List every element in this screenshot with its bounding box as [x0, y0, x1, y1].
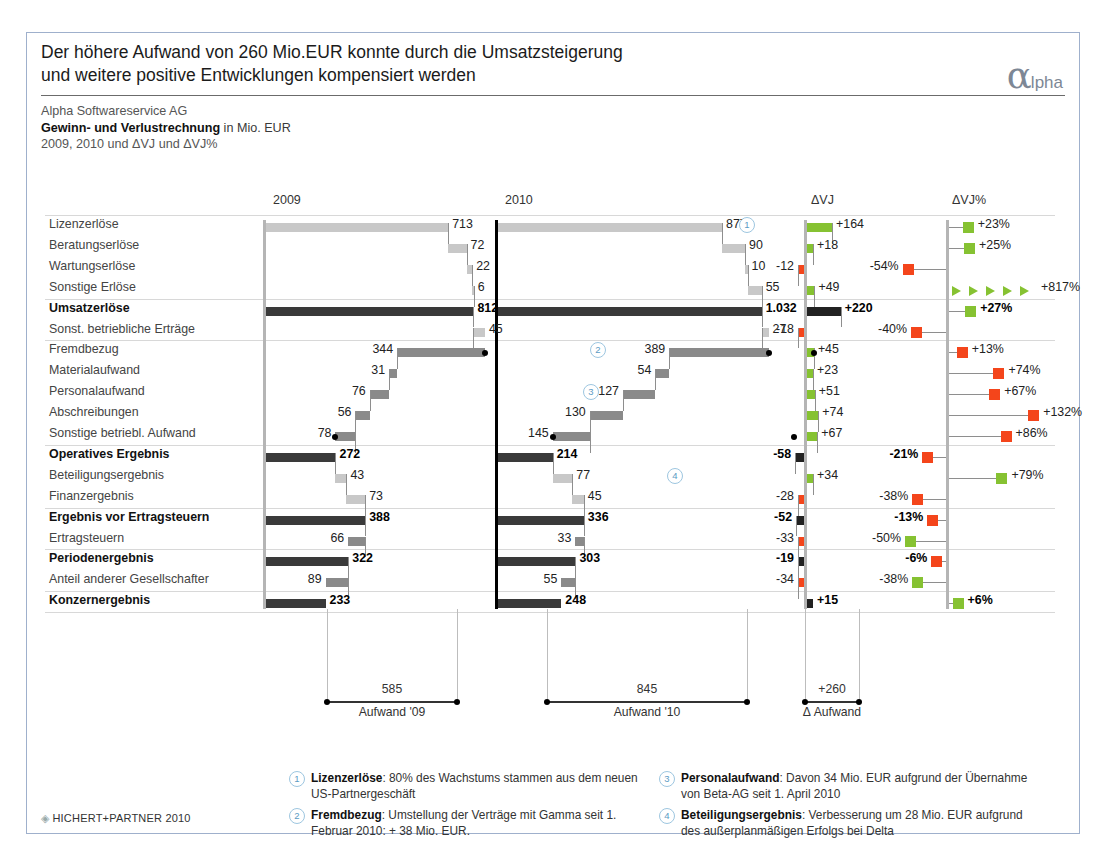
- axis-2009: [263, 220, 266, 609]
- delta-pct-leader: [949, 352, 957, 353]
- row-separator-top: [45, 215, 1055, 216]
- bar-2010: [655, 369, 669, 378]
- row-label: Sonstige betriebl. Aufwand: [49, 426, 196, 440]
- value-delta-pct: +23%: [978, 217, 1010, 231]
- value-delta: -33: [776, 531, 794, 545]
- value-delta: -52: [774, 510, 792, 524]
- delta-pct-leader: [916, 541, 946, 542]
- value-delta: +45: [818, 342, 839, 356]
- bar-2009: [266, 307, 473, 316]
- value-2010: 90: [749, 238, 763, 252]
- bar-connector: [355, 411, 356, 432]
- column-header-delta-pct: ΔVJ%: [952, 193, 986, 207]
- bar-2010: [722, 244, 745, 253]
- value-2009: 344: [372, 342, 393, 356]
- bar-2009: [266, 516, 365, 525]
- value-2010: 303: [579, 551, 600, 565]
- value-2009: 388: [369, 510, 390, 524]
- bar-2010: [498, 557, 575, 566]
- value-2009: 72: [471, 238, 485, 252]
- growth-arrow-icon: [1020, 286, 1029, 296]
- endpoint-dot: [811, 350, 817, 356]
- bar-2009: [266, 223, 448, 232]
- row-label: Anteil anderer Gesellschafter: [49, 572, 209, 586]
- value-2009: 73: [369, 489, 383, 503]
- value-delta-pct: +74%: [1008, 363, 1040, 377]
- value-delta-pct: -6%: [905, 551, 927, 565]
- bracket-line: [547, 701, 747, 703]
- marker-delta-pct: [903, 264, 914, 275]
- value-delta: -34: [776, 572, 794, 586]
- value-delta: -12: [776, 259, 794, 273]
- bar-2009: [348, 537, 365, 546]
- bar-delta: [807, 223, 832, 232]
- bar-connector: [575, 557, 576, 578]
- row-separator: [45, 549, 1055, 550]
- value-2009: 322: [352, 551, 373, 565]
- bracket-dot: [802, 699, 808, 705]
- delta-connector: [798, 537, 799, 558]
- delta-pct-leader: [949, 415, 1028, 416]
- bracket-label-delta-aufwand: Δ Aufwand: [785, 705, 879, 719]
- endpoint-dot: [482, 350, 488, 356]
- delta-pct-leader: [942, 561, 946, 562]
- endpoint-dot: [550, 434, 556, 440]
- value-2009: 76: [352, 384, 366, 398]
- marker-delta-pct: [993, 368, 1004, 379]
- bar-delta: [807, 432, 817, 441]
- value-delta-pct: +86%: [1016, 426, 1048, 440]
- endpoint-dot: [766, 350, 772, 356]
- value-delta: +220: [845, 301, 873, 315]
- delta-connector: [798, 495, 799, 516]
- value-2010: 45: [588, 489, 602, 503]
- footnote-marker-3: 3: [659, 771, 675, 787]
- value-delta: +164: [836, 217, 864, 231]
- value-delta: +51: [819, 384, 840, 398]
- bar-2010: [572, 495, 583, 504]
- bar-2009: [326, 578, 349, 587]
- growth-arrow-icon: [952, 286, 961, 296]
- delta-pct-leader: [949, 311, 965, 312]
- value-delta-pct: +67%: [1004, 384, 1036, 398]
- bar-delta: [807, 411, 818, 420]
- annotation-marker-2[interactable]: 2: [590, 342, 606, 358]
- row-separator: [45, 340, 1055, 341]
- row-separator: [45, 612, 1055, 613]
- bar-connector: [473, 307, 474, 328]
- delta-connector: [796, 516, 797, 537]
- value-delta-pct: -54%: [870, 259, 899, 273]
- value-delta: +34: [817, 468, 838, 482]
- value-2010: 214: [557, 447, 578, 461]
- bracket-label-aufwand09: Aufwand '09: [307, 705, 477, 719]
- column-header-2009: 2009: [273, 193, 301, 207]
- value-2009: 22: [476, 259, 490, 273]
- marker-delta-pct: [996, 473, 1007, 484]
- value-2010: 336: [588, 510, 609, 524]
- bar-connector: [365, 495, 366, 516]
- bar-connector: [745, 244, 746, 265]
- bar-delta: [807, 390, 815, 399]
- delta-connector: [798, 578, 799, 599]
- column-header-2010: 2010: [505, 193, 533, 207]
- bracket-dot: [324, 699, 330, 705]
- row-label: Abschreibungen: [49, 405, 139, 419]
- value-delta: +74: [822, 405, 843, 419]
- bar-2010: [553, 432, 590, 441]
- delta-pct-leader: [922, 332, 946, 333]
- bar-2010: [762, 328, 769, 337]
- row-separator: [45, 591, 1055, 592]
- annotation-marker-1[interactable]: 1: [739, 217, 755, 233]
- value-delta-pct: +13%: [972, 342, 1004, 356]
- value-delta-pct: +25%: [979, 238, 1011, 252]
- bracket-dot: [544, 699, 550, 705]
- delta-connector: [815, 390, 816, 411]
- bar-connector: [389, 369, 390, 390]
- bar-connector: [590, 411, 591, 432]
- annotation-marker-3[interactable]: 3: [583, 384, 599, 400]
- waterfall-chart: 20092010ΔVJΔVJ%LizenzerlöseBeratungserlö…: [27, 33, 1079, 833]
- value-2009: 45: [489, 322, 503, 336]
- value-delta-pct: -40%: [878, 322, 907, 336]
- annotation-marker-4[interactable]: 4: [667, 468, 683, 484]
- row-label: Umsatzerlöse: [49, 301, 130, 315]
- value-delta: -28: [776, 489, 794, 503]
